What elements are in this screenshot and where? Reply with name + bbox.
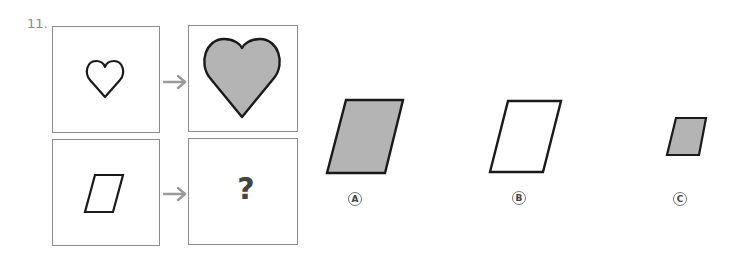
arrow-right-icon	[164, 76, 185, 88]
option-c-parallelogram-icon[interactable]	[667, 118, 706, 155]
small-parallelogram-icon	[85, 175, 123, 212]
option-b-parallelogram-icon[interactable]	[490, 101, 561, 172]
question-mark: ?	[230, 171, 262, 206]
option-b-label[interactable]: B	[512, 191, 526, 205]
option-a-label[interactable]: A	[348, 192, 362, 206]
figure-canvas	[0, 0, 744, 255]
arrow-right-icon	[164, 188, 185, 200]
option-c-label[interactable]: C	[673, 192, 687, 206]
small-heart-icon	[87, 61, 123, 97]
option-a-parallelogram-icon[interactable]	[327, 100, 403, 173]
large-heart-icon	[204, 39, 279, 117]
